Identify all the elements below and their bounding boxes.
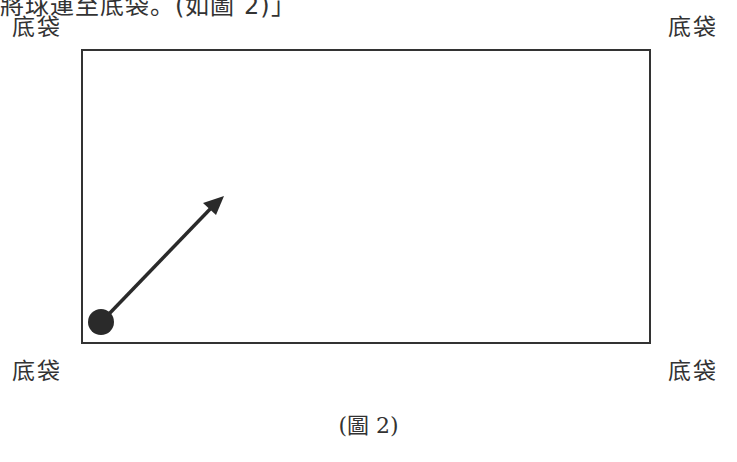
- figure-caption: (圖 2): [0, 407, 737, 439]
- cue-ball-icon: [88, 309, 114, 335]
- direction-arrow-icon: [108, 205, 214, 315]
- ball-trajectory-diagram: [0, 0, 737, 462]
